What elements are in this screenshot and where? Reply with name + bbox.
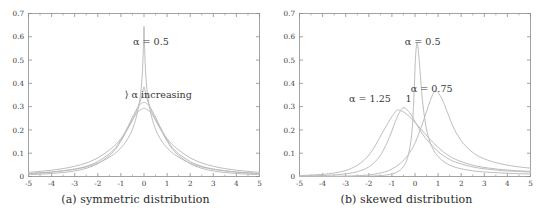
svg-text:0.4: 0.4 <box>13 79 25 88</box>
svg-text:0.7: 0.7 <box>13 9 25 18</box>
svg-text:0.6: 0.6 <box>284 32 296 41</box>
svg-text:0: 0 <box>290 172 295 181</box>
svg-text:-2: -2 <box>365 179 372 188</box>
svg-text:1: 1 <box>436 179 441 188</box>
svg-text:4: 4 <box>234 179 239 188</box>
alpha-1-label: 1 <box>405 93 411 104</box>
figure-container: -5-4-3-2-101234500.10.20.30.40.50.60.7α … <box>0 0 542 219</box>
svg-text:0.2: 0.2 <box>13 126 24 135</box>
alpha-half-label: α = 0.5 <box>133 36 169 47</box>
svg-text:0.3: 0.3 <box>284 102 296 111</box>
svg-text:5: 5 <box>257 179 262 188</box>
curve-alpha-0-5 <box>300 43 531 177</box>
svg-text:2: 2 <box>459 179 464 188</box>
svg-text:0.3: 0.3 <box>13 102 25 111</box>
curve-alpha-1-25 <box>29 108 260 174</box>
svg-text:0.5: 0.5 <box>13 56 25 65</box>
svg-text:1: 1 <box>165 179 170 188</box>
svg-text:0: 0 <box>413 179 418 188</box>
svg-text:5: 5 <box>528 179 533 188</box>
svg-text:3: 3 <box>482 179 487 188</box>
svg-text:2: 2 <box>188 179 193 188</box>
caption-panel-a: (a) symmetric distribution <box>0 193 271 206</box>
svg-text:0.7: 0.7 <box>284 9 296 18</box>
panel-symmetric-distribution: -5-4-3-2-101234500.10.20.30.40.50.60.7α … <box>0 0 271 219</box>
curve-alpha-1-0 <box>29 102 260 173</box>
svg-text:4: 4 <box>505 179 510 188</box>
svg-text:-1: -1 <box>117 179 124 188</box>
svg-text:-5: -5 <box>296 179 303 188</box>
caption-panel-b: (b) skewed distribution <box>271 193 542 206</box>
alpha-0-5-label: α = 0.5 <box>405 36 441 47</box>
svg-text:-3: -3 <box>71 179 78 188</box>
svg-text:0: 0 <box>19 172 24 181</box>
panel-skewed-distribution: -5-4-3-2-101234500.10.20.30.40.50.60.7α … <box>271 0 542 219</box>
svg-text:0.5: 0.5 <box>284 56 296 65</box>
alpha-0-75-label: α = 0.75 <box>411 83 453 94</box>
plot-symmetric: -5-4-3-2-101234500.10.20.30.40.50.60.7α … <box>0 0 271 193</box>
svg-text:0.6: 0.6 <box>13 32 25 41</box>
svg-text:0.1: 0.1 <box>13 149 24 158</box>
svg-text:0.1: 0.1 <box>284 149 295 158</box>
svg-text:-5: -5 <box>25 179 32 188</box>
svg-text:-4: -4 <box>319 179 326 188</box>
alpha-increasing-label: ⟩ α increasing <box>125 89 192 100</box>
plot-skewed: -5-4-3-2-101234500.10.20.30.40.50.60.7α … <box>271 0 542 193</box>
svg-text:0.2: 0.2 <box>284 126 295 135</box>
svg-text:3: 3 <box>211 179 216 188</box>
svg-text:0: 0 <box>142 179 147 188</box>
alpha-1-25-label: α = 1.25 <box>349 93 391 104</box>
svg-text:0.4: 0.4 <box>284 79 296 88</box>
svg-text:-2: -2 <box>94 179 101 188</box>
svg-text:-3: -3 <box>342 179 349 188</box>
svg-text:-1: -1 <box>388 179 395 188</box>
curve-alpha-0-75 <box>300 91 531 176</box>
svg-text:-4: -4 <box>48 179 55 188</box>
